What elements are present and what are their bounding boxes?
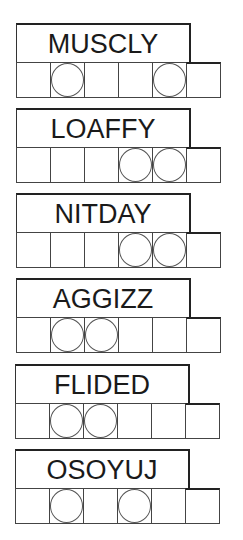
circle-marker-icon	[118, 489, 151, 523]
puzzle-4: AGGIZZ	[16, 278, 226, 354]
scrambled-word-box: AGGIZZ	[16, 278, 191, 317]
answer-row	[15, 403, 225, 439]
scrambled-word-box: NITDAY	[16, 193, 191, 232]
circle-marker-icon	[85, 318, 118, 352]
circle-marker-icon	[119, 233, 152, 267]
scrambled-word-box: MUSCLY	[16, 23, 191, 62]
answer-cell[interactable]	[16, 147, 51, 183]
scrambled-word: FLIDED	[16, 369, 188, 401]
answer-cell[interactable]	[152, 317, 187, 353]
answer-cell[interactable]	[83, 488, 118, 524]
answer-cell[interactable]	[117, 488, 152, 524]
scrambled-word-box: LOAFFY	[16, 108, 191, 147]
answer-cell[interactable]	[186, 147, 221, 183]
circle-marker-icon	[153, 63, 186, 97]
answer-cell[interactable]	[152, 232, 187, 268]
answer-cell[interactable]	[117, 403, 152, 439]
scrambled-word-box: OSOYUJ	[15, 449, 190, 488]
answer-row	[15, 488, 225, 524]
answer-row	[16, 232, 226, 268]
puzzle-3: NITDAY	[16, 193, 226, 269]
circle-marker-icon	[50, 489, 83, 523]
answer-cell[interactable]	[83, 403, 118, 439]
circle-marker-icon	[153, 148, 186, 182]
puzzle-6: OSOYUJ	[15, 449, 225, 525]
circle-marker-icon	[153, 233, 186, 267]
circle-marker-icon	[51, 63, 84, 97]
answer-row	[16, 317, 226, 353]
answer-cell[interactable]	[16, 62, 51, 98]
scrambled-word: NITDAY	[17, 198, 189, 230]
circle-marker-icon	[51, 318, 84, 352]
circle-marker-icon	[84, 404, 117, 438]
scrambled-word-box: FLIDED	[15, 364, 190, 403]
answer-cell[interactable]	[84, 62, 119, 98]
answer-cell[interactable]	[84, 317, 119, 353]
answer-cell[interactable]	[118, 62, 153, 98]
answer-cell[interactable]	[118, 147, 153, 183]
answer-cell[interactable]	[185, 488, 220, 524]
answer-cell[interactable]	[50, 147, 85, 183]
answer-cell[interactable]	[50, 62, 85, 98]
answer-cell[interactable]	[84, 147, 119, 183]
answer-cell[interactable]	[152, 62, 187, 98]
answer-cell[interactable]	[152, 147, 187, 183]
answer-cell[interactable]	[118, 317, 153, 353]
answer-cell[interactable]	[151, 403, 186, 439]
answer-cell[interactable]	[84, 232, 119, 268]
circle-marker-icon	[119, 148, 152, 182]
answer-cell[interactable]	[50, 317, 85, 353]
answer-cell[interactable]	[186, 232, 221, 268]
answer-cell[interactable]	[186, 62, 221, 98]
answer-cell[interactable]	[16, 232, 51, 268]
answer-cell[interactable]	[118, 232, 153, 268]
scrambled-word: MUSCLY	[17, 28, 189, 60]
scrambled-word: AGGIZZ	[17, 283, 189, 315]
answer-cell[interactable]	[185, 403, 220, 439]
answer-cell[interactable]	[15, 488, 50, 524]
answer-cell[interactable]	[15, 403, 50, 439]
answer-cell[interactable]	[49, 403, 84, 439]
puzzle-5: FLIDED	[15, 364, 225, 440]
circle-marker-icon	[50, 404, 83, 438]
scrambled-word: LOAFFY	[17, 113, 189, 145]
puzzle-2: LOAFFY	[16, 108, 226, 184]
answer-cell[interactable]	[16, 317, 51, 353]
answer-cell[interactable]	[151, 488, 186, 524]
scrambled-word: OSOYUJ	[16, 454, 188, 486]
answer-cell[interactable]	[50, 232, 85, 268]
puzzle-1: MUSCLY	[16, 23, 226, 99]
answer-row	[16, 62, 226, 98]
answer-row	[16, 147, 226, 183]
answer-cell[interactable]	[49, 488, 84, 524]
answer-cell[interactable]	[186, 317, 221, 353]
